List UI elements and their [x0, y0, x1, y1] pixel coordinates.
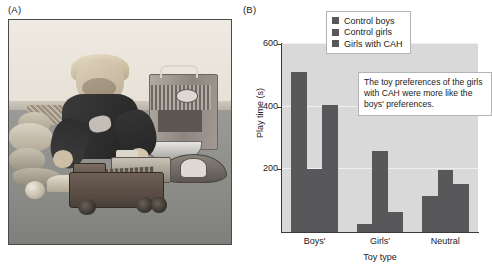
bar: [438, 170, 454, 232]
toy-ball: [25, 181, 45, 199]
truck-wheel: [151, 197, 167, 213]
locker-badge: [176, 89, 198, 102]
legend-swatch-icon: [332, 40, 339, 47]
bar: [322, 105, 338, 232]
y-axis-title: Play time (s): [255, 68, 265, 158]
locker-panel: [158, 110, 202, 132]
stuffed-animal: [9, 148, 45, 170]
legend-item-control-boys: Control boys: [332, 15, 403, 27]
legend-label: Control boys: [344, 16, 395, 26]
photo-scene: [9, 20, 231, 244]
x-tick-label: Neutral: [413, 236, 478, 246]
chart-annotation-callout: The toy preferences of the girls with CA…: [358, 72, 492, 116]
panel-a: (A): [0, 0, 240, 267]
legend-label: Girls with CAH: [344, 39, 403, 49]
photograph: [8, 19, 232, 245]
x-tick-label: Boys': [282, 236, 347, 246]
y-axis-line: [281, 43, 282, 233]
y-tick-mark: [277, 107, 282, 108]
legend-swatch-icon: [332, 17, 339, 24]
bar: [372, 151, 388, 232]
legend-item-control-girls: Control girls: [332, 27, 403, 39]
legend-swatch-icon: [332, 29, 339, 36]
panel-a-label: (A): [8, 4, 21, 15]
x-tick-label: Girls': [347, 236, 412, 246]
bar: [422, 196, 438, 232]
bar: [357, 224, 373, 232]
locker-handle: [160, 65, 197, 78]
y-tick-label: 200: [242, 163, 278, 173]
x-axis-line: [281, 232, 479, 233]
truck-wheel: [78, 199, 96, 215]
x-axis-title: Toy type: [281, 252, 479, 262]
chart-legend: Control boys Control girls Girls with CA…: [326, 11, 411, 54]
bar: [453, 184, 469, 232]
bar: [307, 169, 323, 232]
y-tick-mark: [277, 169, 282, 170]
y-tick-label: 600: [242, 38, 278, 48]
helmet-shield: [180, 158, 206, 178]
panel-b: (B) 200400600 Play time (s) Boys'Girls'N…: [240, 0, 491, 267]
y-tick-mark: [277, 44, 282, 45]
legend-item-girls-with-cah: Girls with CAH: [332, 38, 403, 50]
bar: [291, 72, 307, 232]
bar: [388, 212, 404, 232]
legend-label: Control girls: [344, 27, 392, 37]
